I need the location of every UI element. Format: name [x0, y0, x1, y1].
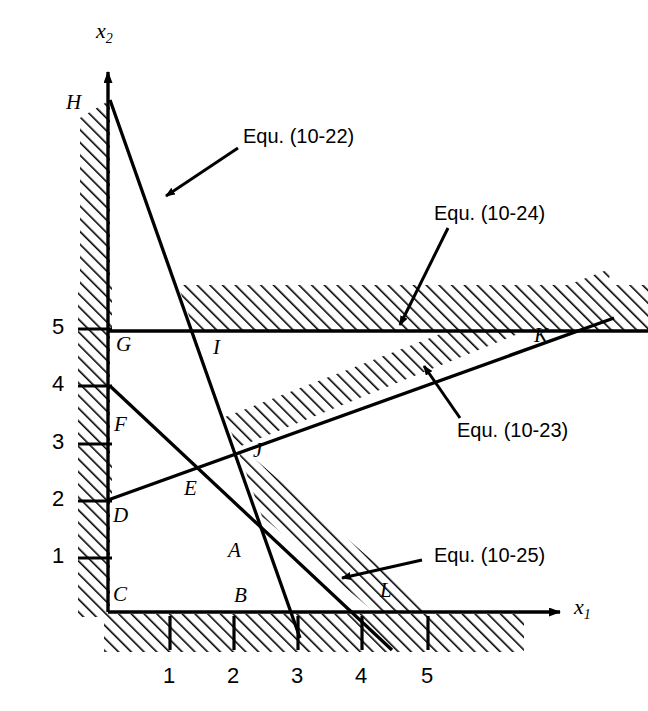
annotation-eq24: Equ. (10-24) [434, 203, 545, 223]
x-tick-label-2: 2 [227, 665, 239, 687]
x-tick-label-5: 5 [421, 665, 433, 687]
x-tick-label-4: 4 [355, 665, 367, 687]
point-label-A: A [228, 540, 241, 561]
point-label-B: B [234, 585, 247, 606]
x-tick-label-1: 1 [163, 665, 175, 687]
annotation-eq22: Equ. (10-22) [243, 126, 354, 146]
point-label-H: H [66, 92, 81, 113]
lp-diagram-svg [0, 0, 648, 711]
point-label-C: C [113, 584, 127, 605]
point-label-I: I [213, 337, 220, 358]
point-label-K: K [534, 325, 548, 346]
y-tick-label-5: 5 [52, 316, 64, 338]
y-tick-label-3: 3 [52, 431, 64, 453]
point-label-D: D [113, 505, 128, 526]
hatch-band-eq22 [80, 100, 110, 612]
y-tick-label-4: 4 [52, 373, 64, 395]
x-axis-label: x1 [574, 596, 591, 622]
leader-arrow-eq22 [166, 148, 238, 196]
point-label-G: G [116, 334, 131, 355]
point-label-E: E [184, 478, 197, 499]
y-axis-label: x2 [96, 20, 113, 46]
point-label-F: F [114, 414, 127, 435]
point-label-J: J [253, 440, 262, 461]
annotation-eq23: Equ. (10-23) [457, 420, 568, 440]
y-tick-label-1: 1 [52, 545, 64, 567]
x-tick-label-3: 3 [291, 665, 303, 687]
annotation-eq25: Equ. (10-25) [434, 545, 545, 565]
y-tick-label-2: 2 [52, 488, 64, 510]
point-label-L: L [380, 580, 392, 601]
figure-canvas: x2 x1 5 4 3 2 1 1 2 3 4 5 H G F D C I J … [0, 0, 648, 711]
hatch-knockout-region [108, 104, 648, 711]
